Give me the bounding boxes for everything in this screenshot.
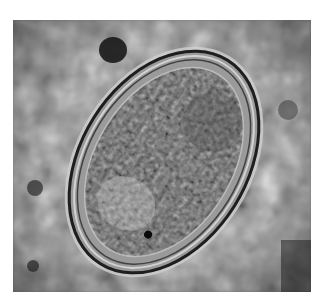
micrograph-svg xyxy=(13,20,311,292)
dark-particle xyxy=(99,37,127,63)
micrograph-image xyxy=(13,20,311,292)
